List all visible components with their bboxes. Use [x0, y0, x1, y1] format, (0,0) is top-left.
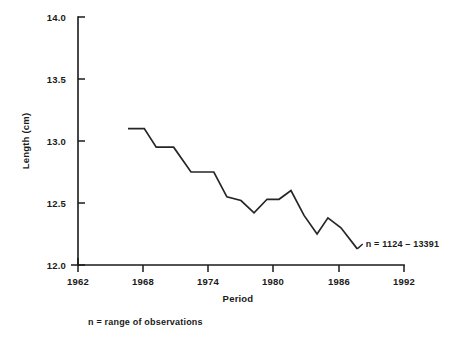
x-axis-tick-labels: 1962 1968 1974 1980 1986 1992 — [67, 276, 415, 287]
y-tick-label-12-5: 12.5 — [47, 198, 67, 209]
chart-container: 14.0 13.5 13.0 12.5 12.0 1962 1968 1974 … — [0, 0, 458, 338]
footnote-text: n = range of observations — [88, 317, 203, 327]
x-tick-label-1968: 1968 — [132, 276, 154, 287]
x-tick-label-1980: 1980 — [262, 276, 284, 287]
x-tick-label-1992: 1992 — [393, 276, 415, 287]
line-chart: 14.0 13.5 13.0 12.5 12.0 1962 1968 1974 … — [0, 0, 458, 338]
x-axis-title: Period — [223, 293, 254, 304]
n-range-annotation: n = 1124 – 13391 — [366, 239, 440, 249]
y-axis-tick-labels: 14.0 13.5 13.0 12.5 12.0 — [47, 12, 67, 271]
y-tick-label-13-5: 13.5 — [47, 74, 67, 85]
x-tick-label-1962: 1962 — [67, 276, 89, 287]
annotation-leader-line — [357, 244, 362, 249]
y-tick-label-14-0: 14.0 — [47, 12, 66, 23]
y-axis-title: Length (cm) — [20, 113, 31, 170]
data-series-line — [128, 129, 357, 249]
y-tick-label-13-0: 13.0 — [47, 136, 66, 147]
x-tick-label-1986: 1986 — [328, 276, 350, 287]
x-tick-label-1974: 1974 — [197, 276, 219, 287]
y-tick-label-12-0: 12.0 — [47, 260, 66, 271]
